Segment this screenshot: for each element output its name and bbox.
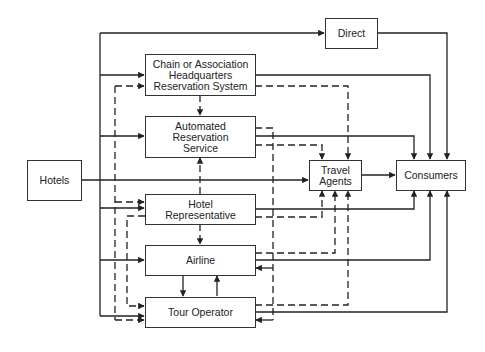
node-airline-label: Airline	[186, 255, 215, 266]
node-hotels-label: Hotels	[40, 175, 70, 186]
node-chain-label: Chain or Association Headquarters Reserv…	[153, 59, 249, 92]
node-direct: Direct	[325, 18, 378, 49]
edge-ars-to-travel-agents	[255, 145, 322, 159]
node-hotel-rep-label: Hotel Representative	[165, 199, 236, 221]
node-travel-agents: Travel Agents	[309, 160, 362, 191]
edge-tour-operator-to-travel-agents	[255, 191, 348, 305]
node-automated-reservation-service: Automated Reservation Service	[145, 116, 256, 158]
node-airline: Airline	[145, 245, 256, 276]
node-consumers: Consumers	[396, 160, 466, 191]
edge-hotel-rep-to-travel-agents	[255, 191, 322, 217]
node-tour-operator-label: Tour Operator	[168, 307, 233, 318]
edge-airline-to-travel-agents	[255, 191, 335, 253]
edge-chain-to-consumers	[255, 75, 430, 159]
node-hotel-representative: Hotel Representative	[145, 194, 256, 225]
edge-hotel-rep-to-tour-operator	[127, 216, 145, 306]
edge-chain-to-travel-agents	[255, 86, 348, 159]
edge-ars-to-consumers	[255, 136, 414, 159]
node-hotels: Hotels	[27, 160, 82, 201]
node-chain-reservation-system: Chain or Association Headquarters Reserv…	[145, 54, 256, 96]
node-ars-label: Automated Reservation Service	[172, 121, 228, 154]
node-travel-agents-label: Travel Agents	[319, 165, 352, 187]
node-direct-label: Direct	[338, 28, 365, 39]
edge-direct-to-consumers	[377, 33, 447, 159]
ars-right-dashed-trunk	[255, 128, 273, 320]
edge-airline-to-consumers	[255, 191, 430, 260]
node-consumers-label: Consumers	[404, 170, 458, 181]
node-tour-operator: Tour Operator	[145, 297, 256, 328]
